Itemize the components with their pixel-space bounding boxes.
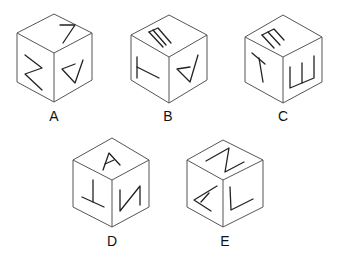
cube-b — [131, 15, 207, 103]
option-label-a: A — [49, 108, 58, 124]
option-label-b: B — [163, 108, 172, 124]
option-label-c: C — [278, 108, 288, 124]
cube-e — [187, 140, 263, 227]
cube-a — [17, 14, 92, 102]
option-label-d: D — [107, 233, 117, 249]
cube-options-diagram — [0, 0, 338, 258]
option-label-e: E — [220, 233, 229, 249]
cube-d — [73, 138, 149, 227]
cube-c — [245, 15, 322, 103]
